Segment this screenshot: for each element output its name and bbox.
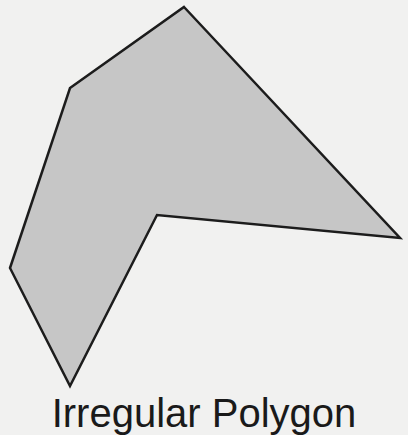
figure-caption: Irregular Polygon [0, 393, 408, 433]
irregular-polygon [10, 7, 400, 386]
